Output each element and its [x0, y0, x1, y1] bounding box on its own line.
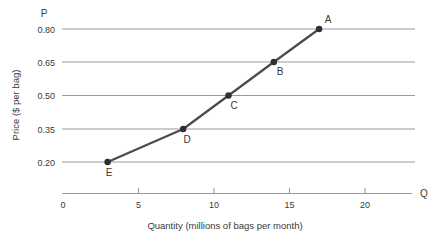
- supply-curve-chart: 0.80 0.65 0.50 0.35 0.20 P Price ($ per …: [0, 0, 437, 242]
- y-tick-label-065: 0.65: [37, 58, 55, 68]
- y-axis-symbol: P: [41, 8, 48, 19]
- chart-page: 0.80 0.65 0.50 0.35 0.20 P Price ($ per …: [0, 0, 437, 242]
- x-tick-label-0: 0: [60, 200, 65, 210]
- x-axis-symbol: Q: [420, 188, 428, 199]
- x-tick-label-20: 20: [360, 200, 370, 210]
- data-point-d: [180, 126, 186, 132]
- y-tick-label-050: 0.50: [37, 91, 55, 101]
- data-point-label-e: E: [106, 167, 113, 178]
- data-point-label-a: A: [325, 14, 332, 25]
- data-point-a: [316, 26, 322, 32]
- x-tick-label-10: 10: [209, 200, 219, 210]
- data-point-label-c: C: [230, 100, 237, 111]
- y-tick-label-035: 0.35: [37, 125, 55, 135]
- data-point-c: [225, 92, 231, 98]
- y-tick-label-080: 0.80: [37, 25, 55, 35]
- x-tick-label-5: 5: [136, 200, 141, 210]
- data-point-b: [271, 59, 277, 65]
- data-point-e: [104, 159, 110, 165]
- x-tick-label-15: 15: [284, 200, 294, 210]
- data-point-label-b: B: [277, 66, 284, 77]
- data-point-label-d: D: [183, 134, 190, 145]
- x-axis-title: Quantity (millions of bags per month): [147, 220, 302, 231]
- y-axis-title: Price ($ per bag): [10, 70, 21, 141]
- y-tick-label-020: 0.20: [37, 158, 55, 168]
